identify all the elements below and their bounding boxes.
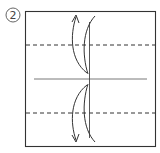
step-number: 2: [10, 9, 17, 22]
origami-step-diagram: 2: [0, 0, 160, 153]
step-number-badge: 2: [6, 8, 20, 22]
